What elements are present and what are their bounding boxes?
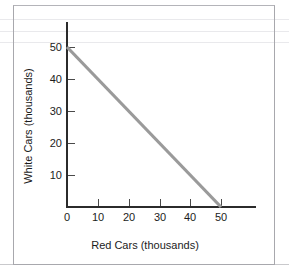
x-axis-tick-10	[98, 199, 99, 206]
x-axis-tick-20	[129, 199, 130, 206]
y-tick-label-30: 30	[40, 106, 62, 117]
x-tick-label-50: 50	[206, 212, 236, 223]
x-axis-tick-30	[160, 199, 161, 206]
x-tick-label-40: 40	[175, 212, 205, 223]
y-axis-tick-30	[68, 111, 75, 112]
plot-area: 50 40 30 20 10 0 10 20 30 40 50 Red Cars…	[0, 0, 289, 278]
x-tick-label-10: 10	[83, 212, 113, 223]
y-axis-tick-40	[68, 79, 75, 80]
x-axis-tick-50	[221, 199, 222, 206]
y-axis-line	[66, 22, 68, 208]
budget-line	[67, 47, 221, 207]
x-tick-label-30: 30	[145, 212, 175, 223]
y-tick-label-group: 50 40 30 20 10	[38, 0, 62, 278]
x-tick-label-20: 20	[114, 212, 144, 223]
x-axis-tick-40	[190, 199, 191, 206]
y-tick-label-50: 50	[40, 42, 62, 53]
y-axis-title: White Cars (thousands)	[22, 46, 34, 206]
x-axis-line	[66, 206, 256, 208]
y-axis-tick-50	[68, 47, 75, 48]
y-tick-label-10: 10	[40, 170, 62, 181]
x-axis-title: Red Cars (thousands)	[40, 239, 250, 251]
y-tick-label-40: 40	[40, 74, 62, 85]
y-tick-label-20: 20	[40, 138, 62, 149]
chart-screenshot: 50 40 30 20 10 0 10 20 30 40 50 Red Cars…	[0, 0, 289, 278]
x-tick-label-0: 0	[52, 212, 82, 223]
y-axis-tick-10	[68, 175, 75, 176]
y-axis-tick-20	[68, 143, 75, 144]
